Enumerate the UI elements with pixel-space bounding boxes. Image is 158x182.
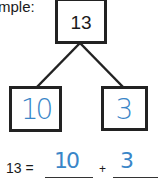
part-box-right[interactable]: 3 xyxy=(101,86,148,131)
part-box-left[interactable]: 10 xyxy=(9,86,62,132)
answer-blank-2[interactable] xyxy=(113,177,158,178)
whole-value: 13 xyxy=(58,12,104,34)
part-right-value: 3 xyxy=(104,93,145,126)
part-left-value: 10 xyxy=(12,93,59,126)
equation-answer-1: 10 xyxy=(54,148,78,173)
plus-sign: + xyxy=(99,162,106,176)
equation-left: 13 = xyxy=(6,160,34,176)
whole-box: 13 xyxy=(55,0,107,44)
answer-blank-1[interactable] xyxy=(45,177,93,178)
equation-answer-2: 3 xyxy=(120,148,134,173)
